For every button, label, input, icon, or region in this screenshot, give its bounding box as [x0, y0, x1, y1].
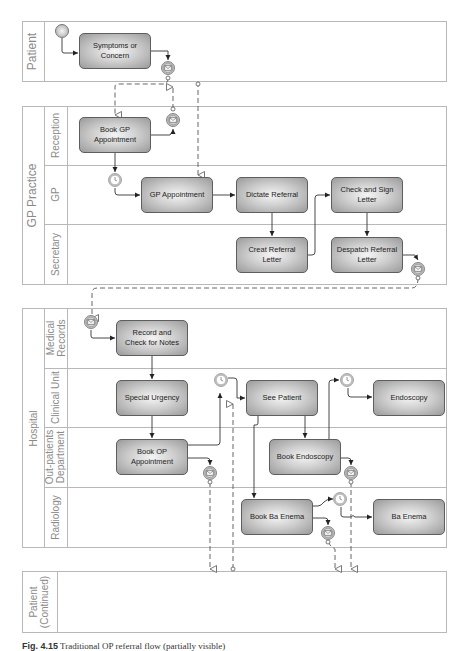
task-check-and-sign-letter[interactable]: Check and Sign Letter: [331, 177, 403, 213]
figure-number: Fig. 4.15: [22, 641, 58, 651]
task-despatch-referral-letter[interactable]: Despatch Referral Letter: [331, 237, 403, 273]
message-event-icon[interactable]: [162, 62, 175, 75]
message-event-icon[interactable]: [322, 527, 335, 540]
task-special-urgency[interactable]: Special Urgency: [116, 380, 188, 416]
task-book-gp-appointment[interactable]: Book GP Appointment: [79, 117, 151, 153]
timer-event-icon[interactable]: [109, 174, 122, 187]
task-see-patient[interactable]: See Patient: [246, 380, 318, 416]
task-book-op-appointment[interactable]: Book OP Appointment: [116, 439, 188, 475]
message-event-icon[interactable]: [167, 114, 180, 127]
timer-event-icon[interactable]: [215, 374, 228, 387]
task-ba-enema[interactable]: Ba Enema: [373, 499, 445, 535]
task-gp-appointment[interactable]: GP Appointment: [141, 177, 213, 213]
message-event-icon[interactable]: [412, 263, 425, 276]
figure-caption-text: Traditional OP referral flow (partially …: [60, 641, 225, 651]
task-symptoms-or-concern[interactable]: Symptoms or Concern: [79, 33, 151, 69]
timer-event-icon[interactable]: [334, 493, 347, 506]
task-dictate-referral[interactable]: Dictate Referral: [236, 177, 308, 213]
task-endoscopy[interactable]: Endoscopy: [373, 380, 445, 416]
task-record-and-check-for-notes[interactable]: Record and Check for Notes: [116, 320, 188, 356]
events-layer: [0, 0, 467, 651]
message-event-icon[interactable]: [204, 467, 217, 480]
message-event-icon[interactable]: [345, 467, 358, 480]
figure-caption: Fig. 4.15 Traditional OP referral flow (…: [22, 641, 225, 651]
message-event-icon[interactable]: [85, 316, 98, 329]
timer-event-icon[interactable]: [341, 374, 354, 387]
start-event-icon[interactable]: [56, 25, 69, 38]
task-book-endoscopy[interactable]: Book Endoscopy: [269, 439, 341, 475]
bpmn-diagram: Patient GP Practice Reception GP Secreta…: [0, 0, 467, 651]
task-book-ba-enema[interactable]: Book Ba Enema: [241, 499, 313, 535]
task-creat-referral-letter[interactable]: Creat Referral Letter: [236, 237, 308, 273]
